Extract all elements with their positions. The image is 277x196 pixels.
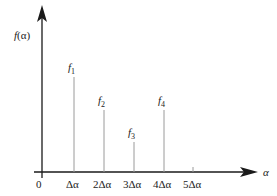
- tick-label-1: Δα: [66, 178, 79, 190]
- stem-label-f2: f2: [98, 94, 105, 109]
- stem-label-f1: f1: [68, 61, 75, 76]
- tick-label-2: 2Δα: [93, 178, 112, 190]
- stem-chart: f(α) α f1 f2 f3 f4 0 Δα 2Δα 3Δα 4Δα 5Δα: [0, 0, 277, 196]
- tick-label-5: 5Δα: [183, 178, 202, 190]
- tick-label-4: 4Δα: [153, 178, 172, 190]
- tick-label-3: 3Δα: [123, 178, 142, 190]
- x-axis-label: α: [263, 166, 269, 178]
- stem-label-f3: f3: [128, 126, 135, 141]
- y-axis-label: f(α): [14, 29, 30, 42]
- origin-label: 0: [36, 178, 42, 190]
- stem-label-f4: f4: [158, 94, 165, 109]
